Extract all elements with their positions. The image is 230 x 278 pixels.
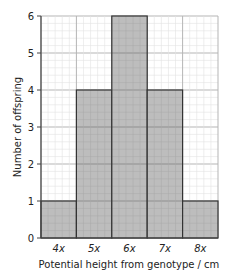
y-tick-4: 4 [28, 85, 34, 96]
x-tick-labels: 4x5x6x7x8x [53, 243, 207, 254]
y-tick-3: 3 [28, 122, 34, 133]
y-tick-6: 6 [28, 11, 34, 22]
x-tick-7x: 7x [159, 243, 171, 254]
y-axis-label: Number of offspring [12, 77, 23, 177]
y-tick-1: 1 [28, 196, 34, 207]
x-tick-4x: 4x [53, 243, 65, 254]
bar-8x [183, 201, 218, 238]
y-tick-5: 5 [28, 48, 34, 59]
x-tick-5x: 5x [88, 243, 100, 254]
x-axis-label: Potential height from genotype / cm [39, 259, 220, 270]
x-tick-6x: 6x [123, 243, 135, 254]
bar-7x [147, 90, 182, 238]
x-tick-8x: 8x [194, 243, 206, 254]
y-tick-labels: 0123456 [28, 11, 41, 244]
bar-5x [76, 90, 111, 238]
bar-4x [41, 201, 76, 238]
y-tick-0: 0 [28, 233, 34, 244]
y-tick-2: 2 [28, 159, 34, 170]
histogram-chart: 0123456 4x5x6x7x8x Number of offspring P… [0, 0, 230, 278]
bar-6x [112, 16, 147, 238]
